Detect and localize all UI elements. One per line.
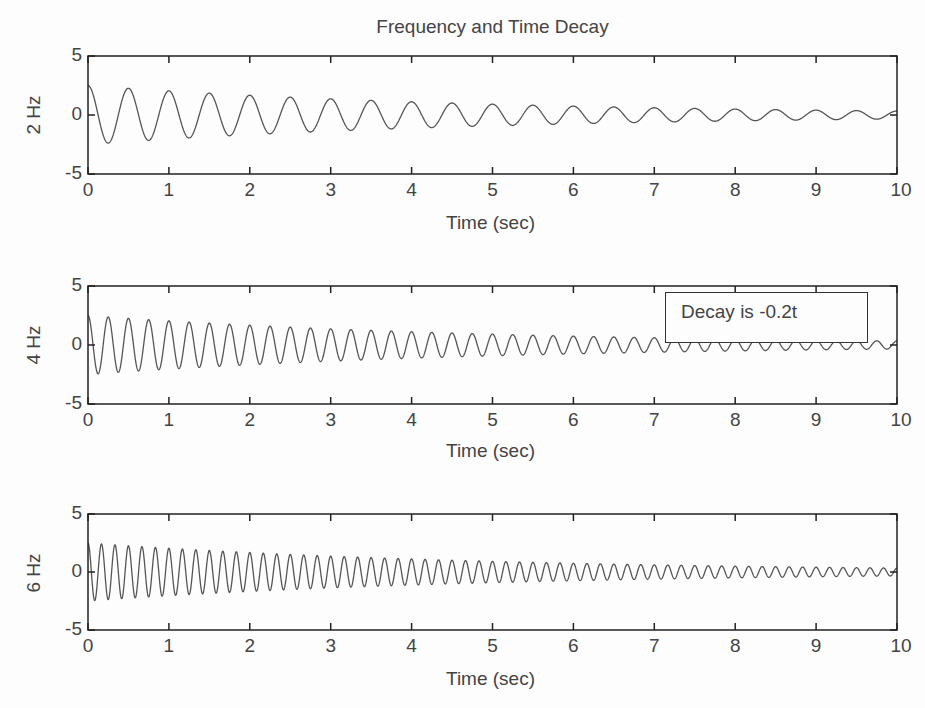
x-tick-label: 4 xyxy=(392,179,432,201)
axes-box xyxy=(88,514,897,630)
y-tick-label: 5 xyxy=(42,44,82,66)
x-tick-label: 2 xyxy=(230,635,270,657)
x-tick-label: 4 xyxy=(392,635,432,657)
decay-annotation: Decay is -0.2t xyxy=(665,292,868,343)
x-tick-label: 5 xyxy=(473,635,513,657)
x-tick-label: 2 xyxy=(230,179,270,201)
y-tick-label: 5 xyxy=(42,502,82,524)
x-tick-label: 1 xyxy=(149,179,189,201)
y-tick-label: 0 xyxy=(42,333,82,355)
x-tick-label: 7 xyxy=(634,409,674,431)
y-tick-label: 0 xyxy=(42,103,82,125)
y-tick-label: 0 xyxy=(42,560,82,582)
x-tick-label: 7 xyxy=(634,179,674,201)
x-tick-label: 6 xyxy=(553,635,593,657)
x-tick-label: 6 xyxy=(553,179,593,201)
x-tick-label: 3 xyxy=(311,179,351,201)
x-tick-label: 3 xyxy=(311,409,351,431)
y-tick-label: -5 xyxy=(42,618,82,640)
panel-1-xlabel: Time (sec) xyxy=(28,212,925,234)
figure-title: Frequency and Time Decay xyxy=(0,16,925,38)
x-tick-label: 9 xyxy=(796,179,836,201)
x-tick-label: 9 xyxy=(796,635,836,657)
y-tick-label: -5 xyxy=(42,162,82,184)
axes-box xyxy=(88,56,897,174)
panel-3-xlabel: Time (sec) xyxy=(28,668,925,690)
x-tick-label: 1 xyxy=(149,635,189,657)
x-tick-label: 2 xyxy=(230,409,270,431)
x-tick-label: 10 xyxy=(881,409,921,431)
signal-line-2hz xyxy=(88,86,897,144)
x-tick-label: 1 xyxy=(149,409,189,431)
x-tick-label: 8 xyxy=(715,409,755,431)
signal-line-6hz xyxy=(88,543,897,601)
x-tick-label: 6 xyxy=(553,409,593,431)
x-tick-label: 10 xyxy=(881,179,921,201)
y-tick-label: 5 xyxy=(42,274,82,296)
plot-canvas xyxy=(0,0,925,708)
y-tick-label: -5 xyxy=(42,392,82,414)
x-tick-label: 9 xyxy=(796,409,836,431)
x-tick-label: 3 xyxy=(311,635,351,657)
x-tick-label: 7 xyxy=(634,635,674,657)
x-tick-label: 5 xyxy=(473,179,513,201)
x-tick-label: 8 xyxy=(715,179,755,201)
x-tick-label: 5 xyxy=(473,409,513,431)
panel-2-xlabel: Time (sec) xyxy=(28,440,925,462)
x-tick-label: 10 xyxy=(881,635,921,657)
x-tick-label: 4 xyxy=(392,409,432,431)
x-tick-label: 8 xyxy=(715,635,755,657)
